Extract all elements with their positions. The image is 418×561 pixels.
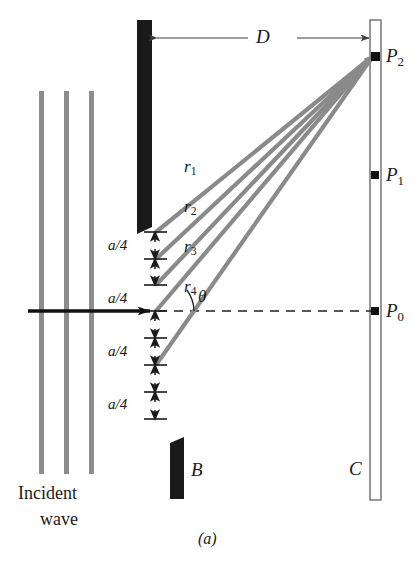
slit-segment-label-2: a/4 bbox=[108, 291, 127, 306]
slit-subdivision-ticks bbox=[144, 232, 167, 419]
barrier-upper bbox=[137, 20, 152, 234]
point-label-P1: P1 bbox=[386, 165, 404, 188]
incident-wavefronts bbox=[39, 91, 94, 474]
ray-r4 bbox=[156, 56, 373, 311]
barrier-lower bbox=[170, 437, 184, 499]
slit-segment-label-4: a/4 bbox=[108, 397, 127, 412]
diffraction-figure: D r1 r2 r3 r4 θ a/4 a/4 a/4 a/4 P2 P1 P0… bbox=[0, 0, 418, 561]
point-label-P0: P0 bbox=[386, 301, 404, 324]
point-P2-marker bbox=[371, 52, 380, 61]
incident-wave-label-line2: wave bbox=[40, 510, 78, 528]
ray-label-r1: r1 bbox=[184, 158, 196, 178]
incident-wave-label-line1: Incident bbox=[18, 484, 77, 502]
ray-label-r2: r2 bbox=[184, 198, 196, 218]
angle-theta-label: θ bbox=[198, 288, 206, 305]
observation-screen bbox=[370, 20, 381, 500]
wavefront-bar-1 bbox=[39, 91, 44, 474]
wavefront-bar-2 bbox=[64, 91, 69, 474]
distance-label: D bbox=[256, 27, 270, 46]
point-P1-marker bbox=[371, 171, 379, 179]
point-P0-marker bbox=[371, 307, 379, 315]
figure-caption: (a) bbox=[198, 531, 217, 547]
screen-label-C: C bbox=[349, 459, 362, 478]
barrier-lower-label: B bbox=[191, 460, 203, 479]
point-label-P2: P2 bbox=[386, 46, 404, 69]
wavefront-bar-3 bbox=[89, 91, 94, 474]
slit-segment-label-3: a/4 bbox=[108, 344, 127, 359]
slit-segment-label-1: a/4 bbox=[108, 238, 127, 253]
ray-label-r3: r3 bbox=[184, 238, 196, 258]
ray-label-r4: r4 bbox=[184, 278, 196, 298]
